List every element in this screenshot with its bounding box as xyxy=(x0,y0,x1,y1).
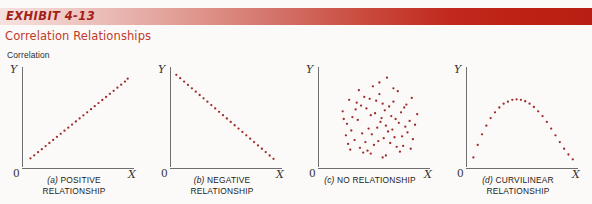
y-axis-label: Y xyxy=(10,63,17,76)
plot-area-curvilinear: Y 0 X xyxy=(466,67,580,169)
section-label: Correlation xyxy=(7,50,50,60)
panel-caption-positive: (a) POSITIVE RELATIONSHIP xyxy=(0,175,148,196)
plot-area-positive: Y 0 X xyxy=(22,67,136,169)
panel-caption-line1: POSITIVE xyxy=(61,175,101,185)
plot-area-negative: Y 0 X xyxy=(170,67,284,169)
panel-caption-curvilinear: (d) CURVILINEAR RELATIONSHIP xyxy=(444,175,592,196)
panel-caption-line1: CURVILINEAR xyxy=(496,175,554,185)
scatter-dots-negative xyxy=(170,67,284,169)
y-axis-label: Y xyxy=(158,63,165,76)
panel-caption-line2: RELATIONSHIP xyxy=(444,186,592,197)
panel-tag: (a) xyxy=(47,175,58,185)
panel-tag: (b) xyxy=(194,175,205,185)
chart-panel-curvilinear: Y 0 X (d) CURVILINEAR RELATIONSHIP xyxy=(444,63,592,204)
panel-caption-line1: NO RELATIONSHIP xyxy=(337,175,416,185)
scatter-dots-curvilinear xyxy=(466,67,580,169)
chart-panel-positive: Y 0 X (a) POSITIVE RELATIONSHIP xyxy=(0,63,148,204)
exhibit-subtitle: Correlation Relationships xyxy=(5,29,151,43)
chart-panel-no-relationship: Y 0 X (c) NO RELATIONSHIP xyxy=(296,63,444,204)
scatter-dots-no-relationship xyxy=(318,67,432,169)
panel-caption-line2: RELATIONSHIP xyxy=(0,186,148,197)
panel-caption-negative: (b) NEGATIVE RELATIONSHIP xyxy=(148,175,296,196)
panel-caption-line1: NEGATIVE xyxy=(207,175,250,185)
scatter-dots-positive xyxy=(22,67,136,169)
panel-caption-no-relationship: (c) NO RELATIONSHIP xyxy=(296,175,444,186)
chart-panel-negative: Y 0 X (b) NEGATIVE RELATIONSHIP xyxy=(148,63,296,204)
panel-tag: (d) xyxy=(482,175,493,185)
y-axis-label: Y xyxy=(454,63,461,76)
plot-area-no-relationship: Y 0 X xyxy=(318,67,432,169)
panel-tag: (c) xyxy=(324,175,334,185)
exhibit-label: EXHIBIT 4-13 xyxy=(6,9,95,23)
panel-caption-line2: RELATIONSHIP xyxy=(148,186,296,197)
y-axis-label: Y xyxy=(306,63,313,76)
